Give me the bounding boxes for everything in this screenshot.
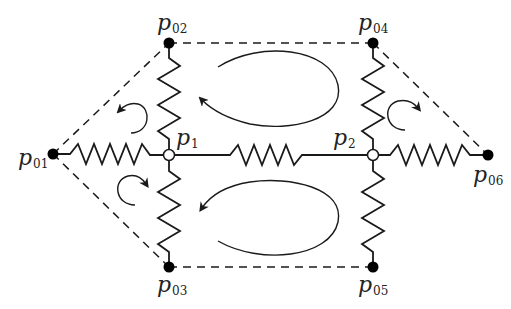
spring-p2-p05	[362, 155, 384, 267]
dashed-edge-p01-p03	[53, 154, 169, 267]
label-p05: p05	[358, 272, 388, 298]
lower-large-loop-arrow-icon	[202, 181, 339, 256]
fixed-node-p02	[164, 38, 175, 49]
label-p01: p01	[18, 145, 48, 171]
springs	[53, 43, 488, 267]
spring-p2-p06	[373, 145, 488, 165]
fixed-node-p06	[483, 150, 494, 161]
free-node-p2	[368, 150, 379, 161]
spring-network-diagram: p02 p04 p01 p1 p2 p06 p03 p05	[0, 0, 511, 309]
fixed-node-p01	[48, 149, 59, 160]
label-p03: p03	[157, 272, 187, 298]
right-small-loop-arrow-icon	[388, 100, 418, 130]
fixed-node-p03	[164, 262, 175, 273]
spring-p01-p1	[53, 144, 169, 164]
lower-left-small-loop-arrow-icon	[118, 175, 146, 205]
upper-left-small-loop-arrow-icon	[120, 103, 147, 133]
dashed-edge-p04-p06	[373, 43, 488, 155]
dashed-edges	[53, 43, 488, 267]
label-p02: p02	[157, 10, 187, 36]
label-p1: p1	[176, 125, 199, 151]
free-node-p1	[164, 150, 175, 161]
dashed-edge-p01-p02	[53, 43, 169, 154]
fixed-node-p05	[368, 262, 379, 273]
label-p06: p06	[473, 162, 503, 188]
spring-p04-p2	[362, 43, 384, 155]
fixed-node-p04	[368, 38, 379, 49]
spring-p1-p03	[158, 155, 180, 267]
upper-large-loop-arrow-icon	[202, 51, 339, 126]
label-p04: p04	[358, 10, 389, 36]
label-p2: p2	[333, 125, 356, 151]
